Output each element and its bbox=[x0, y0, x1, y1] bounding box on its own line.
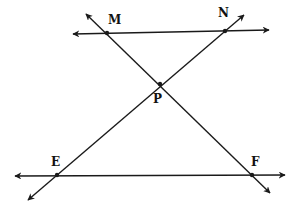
point-N bbox=[223, 29, 227, 33]
point-P bbox=[158, 82, 162, 86]
label-M: M bbox=[108, 13, 121, 27]
label-F: F bbox=[251, 155, 260, 169]
point-F bbox=[250, 173, 254, 177]
line-NE bbox=[28, 15, 244, 200]
line-MF bbox=[86, 14, 270, 193]
label-N: N bbox=[218, 6, 229, 20]
label-P: P bbox=[153, 92, 162, 106]
point-M bbox=[105, 31, 109, 35]
point-E bbox=[55, 173, 59, 177]
label-E: E bbox=[51, 155, 60, 169]
geometry-diagram: M N P E F bbox=[0, 0, 292, 209]
